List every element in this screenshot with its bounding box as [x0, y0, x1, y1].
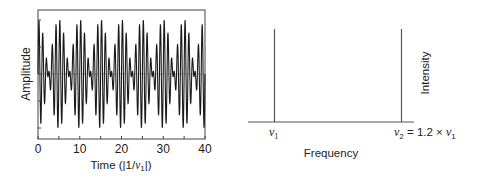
- frequency-domain-plot: ν1 ν2 = 1.2 × ν1 Frequency Intensity: [248, 29, 456, 159]
- x-tick-labels: 010203040: [35, 142, 212, 156]
- svg-text:30: 30: [157, 142, 171, 156]
- y-axis-label: Amplitude: [19, 47, 33, 101]
- nu1-label: ν1: [269, 125, 278, 141]
- svg-text:0: 0: [35, 142, 42, 156]
- frequency-axis-label: Frequency: [304, 147, 359, 159]
- waveform-line: [38, 21, 205, 128]
- svg-text:20: 20: [115, 142, 129, 156]
- time-domain-plot: 010203040 Time (|1/ν1|) Amplitude: [19, 10, 212, 173]
- intensity-axis-label: Intensity: [419, 51, 431, 94]
- figure: 010203040 Time (|1/ν1|) Amplitude ν1 ν2 …: [0, 0, 480, 184]
- svg-text:40: 40: [198, 142, 212, 156]
- x-axis-label: Time (|1/ν1|): [90, 159, 151, 173]
- nu2-label: ν2 = 1.2 × ν1: [394, 125, 456, 141]
- svg-text:10: 10: [73, 142, 87, 156]
